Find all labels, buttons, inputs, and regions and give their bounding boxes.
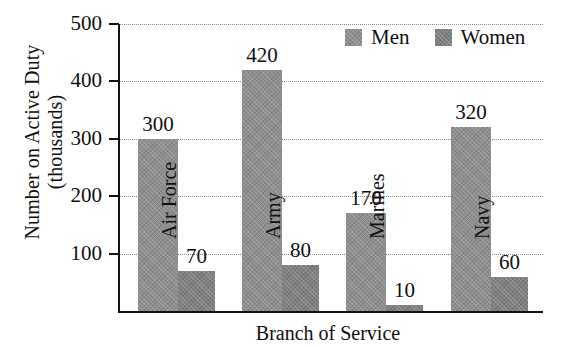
category-label-army: Army	[262, 192, 285, 239]
y-axis-tickmark	[109, 80, 119, 82]
bar-women-marines	[386, 305, 423, 311]
category-label-air-force: Air Force	[158, 162, 181, 239]
bar-label-men-navy: 320	[441, 102, 501, 123]
bar-women-navy	[491, 277, 528, 311]
bar-label-women-air-force: 70	[168, 246, 225, 267]
x-axis-title: Branch of Service	[118, 322, 538, 345]
y-axis-tickmark	[109, 195, 119, 197]
y-axis-line	[118, 24, 120, 313]
bar-label-women-marines: 10	[376, 280, 433, 301]
bar-label-women-army: 80	[272, 240, 329, 261]
legend: MenWomen	[345, 25, 525, 49]
y-axis-title-line1: Number on Active Duty	[21, 45, 44, 240]
bar-men-army	[242, 70, 282, 311]
bar-label-men-army: 420	[232, 45, 292, 66]
gridline	[118, 81, 543, 82]
plot-area: 30070420801701032060 Air ForceArmyMarine…	[118, 24, 543, 313]
bar-women-air-force	[178, 271, 215, 311]
bar-label-women-navy: 60	[481, 252, 538, 273]
y-axis-tick-label: 500	[46, 13, 102, 34]
bar-label-men-air-force: 300	[128, 114, 188, 135]
y-axis-tick-label: 100	[46, 243, 102, 264]
y-axis-tick-label: 300	[46, 128, 102, 149]
bar-women-army	[282, 265, 319, 311]
y-axis-tickmark	[109, 138, 119, 140]
y-axis-tickmark	[109, 23, 119, 25]
category-label-navy: Navy	[471, 196, 494, 239]
legend-swatch-women	[435, 29, 452, 46]
y-axis-tickmark	[109, 253, 119, 255]
y-axis-tick-label: 200	[46, 185, 102, 206]
legend-label-men: Men	[371, 27, 410, 48]
x-axis-line	[118, 311, 543, 313]
legend-item-women: Women	[435, 27, 526, 48]
y-axis-tick-label: 400	[46, 70, 102, 91]
legend-item-men: Men	[345, 27, 410, 48]
legend-swatch-men	[345, 29, 362, 46]
category-label-marines: Marines	[366, 173, 389, 239]
legend-label-women: Women	[461, 27, 526, 48]
bar-chart: Number on Active Duty (thousands) 100200…	[0, 0, 562, 349]
